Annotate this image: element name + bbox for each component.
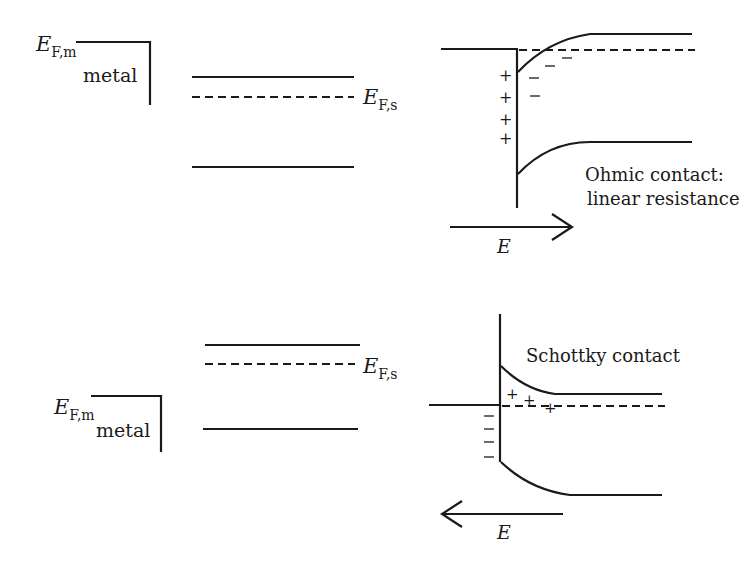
schottky-before-contact: EF,s EF,m metal <box>53 345 398 452</box>
svg-text:+: + <box>523 391 536 409</box>
schottky-caption: Schottky contact <box>526 345 681 366</box>
electric-field-label-schottky: E <box>496 521 511 543</box>
positive-charges-semiconductor-schottky: + + + <box>506 385 557 417</box>
ohmic-caption-line1: Ohmic contact: <box>585 164 724 185</box>
svg-text:+: + <box>499 110 512 129</box>
metal-fermi-level-label-top: EF,m <box>35 32 77 60</box>
negative-charges-metal-schottky <box>484 416 494 457</box>
svg-text:+: + <box>499 129 512 148</box>
negative-charges-semiconductor-ohmic <box>529 58 572 96</box>
svg-text:+: + <box>506 385 519 403</box>
svg-text:+: + <box>499 88 512 107</box>
band-diagram-canvas: EF,m metal EF,s + + + + Ohmic contact: l… <box>0 0 753 564</box>
metal-label-top: metal <box>83 64 137 86</box>
conduction-band-bent-schottky <box>501 366 662 394</box>
semiconductor-fermi-level-label-bottom: EF,s <box>362 354 398 382</box>
metal-fermi-level-label-bottom: EF,m <box>53 395 95 423</box>
conduction-band-bent-ohmic <box>518 34 692 72</box>
schottky-contact-band-diagram: Schottky contact + + + E <box>429 314 681 543</box>
ohmic-before-contact: EF,m metal EF,s <box>35 32 398 167</box>
metal-label-bottom: metal <box>96 419 150 441</box>
svg-text:+: + <box>499 66 512 85</box>
valence-band-bent-schottky <box>501 462 662 495</box>
svg-text:+: + <box>544 399 557 417</box>
electric-field-arrow-right <box>450 214 572 240</box>
electric-field-label-ohmic: E <box>496 235 511 257</box>
ohmic-contact-band-diagram: + + + + Ohmic contact: linear resistance… <box>441 34 740 257</box>
semiconductor-fermi-level-label-top: EF,s <box>362 85 398 113</box>
ohmic-caption-line2: linear resistance <box>587 188 740 209</box>
positive-charges-metal-ohmic: + + + + <box>499 66 512 148</box>
